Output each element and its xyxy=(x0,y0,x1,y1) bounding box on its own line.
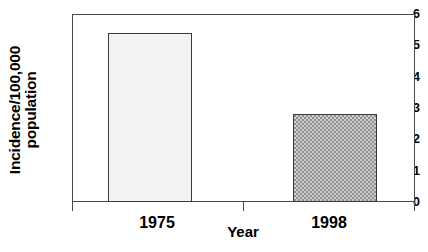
x-tick-mark-left xyxy=(72,202,73,211)
bar-chart: Incidence/100,000 population 0 1 2 3 4 5… xyxy=(0,0,428,252)
bar-1998[interactable] xyxy=(293,114,377,202)
y-axis-title: Incidence/100,000 population xyxy=(0,10,46,210)
x-tick-label-1998: 1998 xyxy=(311,214,347,232)
y-axis-title-line-2: population xyxy=(23,71,39,148)
x-axis-title: Year xyxy=(227,223,259,240)
bar-1975[interactable] xyxy=(108,33,192,202)
x-tick-label-1975: 1975 xyxy=(139,214,175,232)
x-tick-mark-right xyxy=(414,202,415,211)
y-axis-title-line-1: Incidence/100,000 xyxy=(7,46,23,174)
x-tick-mark-mid xyxy=(243,202,244,211)
